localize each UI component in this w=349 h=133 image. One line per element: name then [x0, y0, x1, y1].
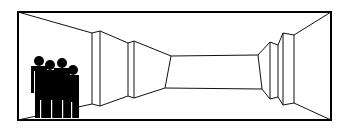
- back-wall: [165, 55, 262, 89]
- room-illustration: [0, 0, 349, 133]
- right-wall: [258, 12, 331, 120]
- people-group: [31, 56, 79, 118]
